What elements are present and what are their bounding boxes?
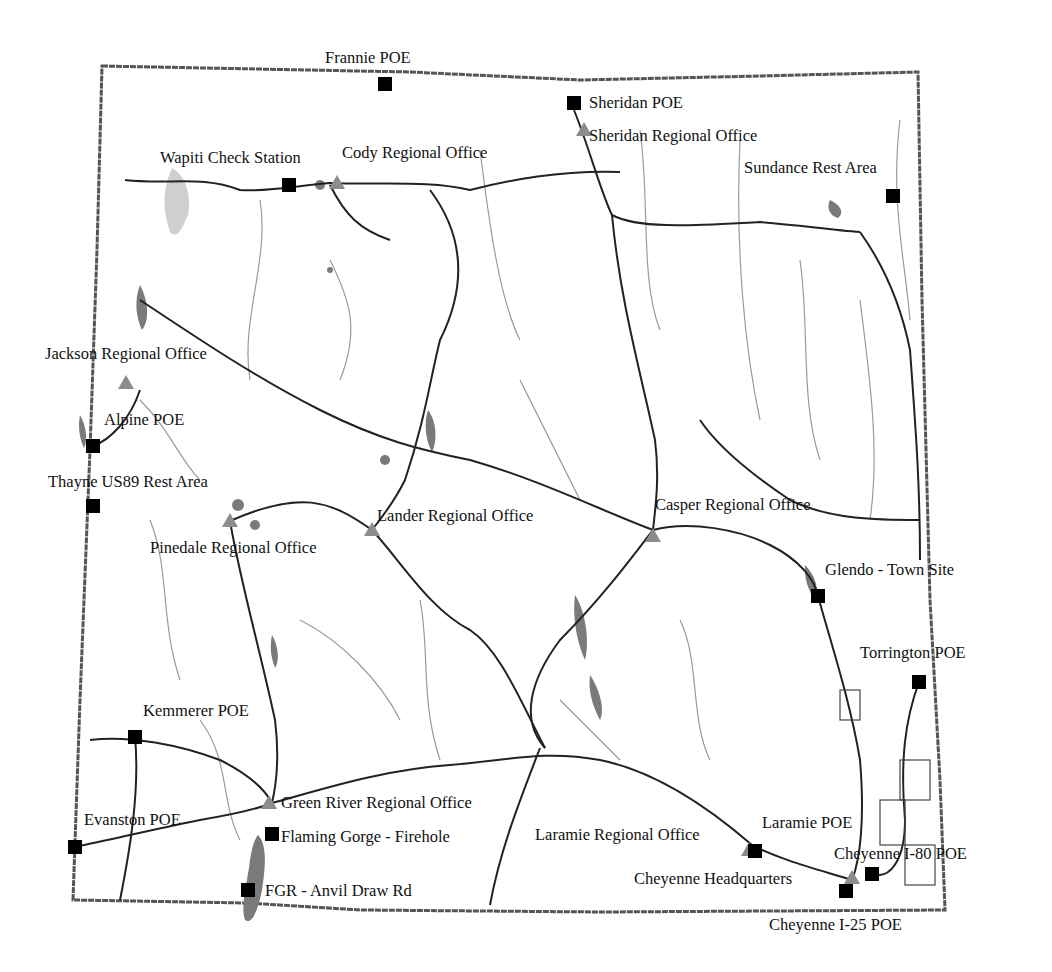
location-label-torrington-poe: Torrington POE xyxy=(860,645,966,662)
poe-square-icon[interactable] xyxy=(748,844,762,858)
poe-square-icon[interactable] xyxy=(265,827,279,841)
poe-square-icon[interactable] xyxy=(811,589,825,603)
poe-square-icon[interactable] xyxy=(378,77,392,91)
poe-square-icon[interactable] xyxy=(241,883,255,897)
minor-roads xyxy=(140,120,910,840)
poe-square-icon[interactable] xyxy=(86,499,100,513)
location-label-jackson-regional-office: Jackson Regional Office xyxy=(45,346,207,363)
location-label-laramie-regional-office: Laramie Regional Office xyxy=(535,827,700,844)
poe-square-icon[interactable] xyxy=(282,178,296,192)
regional-office-triangle-icon[interactable] xyxy=(222,513,238,527)
poe-square-icon[interactable] xyxy=(128,730,142,744)
poe-square-icon[interactable] xyxy=(68,840,82,854)
location-label-cheyenne-i-80-poe: Cheyenne I-80 POE xyxy=(834,846,967,863)
location-label-cheyenne-headquarters: Cheyenne Headquarters xyxy=(634,871,792,888)
location-label-fgr-anvil-draw-rd: FGR - Anvil Draw Rd xyxy=(265,883,412,900)
regional-office-triangle-icon[interactable] xyxy=(118,375,134,389)
regional-office-triangle-icon[interactable] xyxy=(261,795,277,809)
location-label-sundance-rest-area: Sundance Rest Area xyxy=(744,160,877,177)
location-label-wapiti-check-station: Wapiti Check Station xyxy=(160,150,301,167)
poe-square-icon[interactable] xyxy=(912,675,926,689)
location-label-casper-regional-office: Casper Regional Office xyxy=(655,497,810,514)
location-label-glendo-town-site: Glendo - Town Site xyxy=(825,562,954,579)
location-label-laramie-poe: Laramie POE xyxy=(762,815,852,832)
poe-square-icon[interactable] xyxy=(567,96,581,110)
location-label-frannie-poe: Frannie POE xyxy=(325,50,411,67)
regional-office-triangle-icon[interactable] xyxy=(645,528,661,542)
poe-square-icon[interactable] xyxy=(865,867,879,881)
location-label-sheridan-poe: Sheridan POE xyxy=(589,95,683,112)
poe-square-icon[interactable] xyxy=(86,439,100,453)
location-label-flaming-gorge-firehole: Flaming Gorge - Firehole xyxy=(281,829,450,846)
regional-office-triangle-icon[interactable] xyxy=(844,870,860,884)
location-label-cheyenne-i-25-poe: Cheyenne I-25 POE xyxy=(769,917,902,934)
location-label-evanston-poe: Evanston POE xyxy=(84,812,181,829)
poe-square-icon[interactable] xyxy=(886,189,900,203)
location-label-lander-regional-office: Lander Regional Office xyxy=(377,508,533,525)
location-label-green-river-regional-office: Green River Regional Office xyxy=(281,795,472,812)
location-label-pinedale-regional-office: Pinedale Regional Office xyxy=(150,540,316,557)
regional-office-triangle-icon[interactable] xyxy=(329,175,345,189)
location-label-kemmerer-poe: Kemmerer POE xyxy=(143,703,249,720)
poe-square-icon[interactable] xyxy=(839,884,853,898)
location-label-sheridan-regional-office: Sheridan Regional Office xyxy=(589,128,757,145)
location-label-cody-regional-office: Cody Regional Office xyxy=(342,145,487,162)
location-label-thayne-us89-rest-area: Thayne US89 Rest Area xyxy=(48,474,208,491)
location-label-alpine-poe: Alpine POE xyxy=(104,412,184,429)
